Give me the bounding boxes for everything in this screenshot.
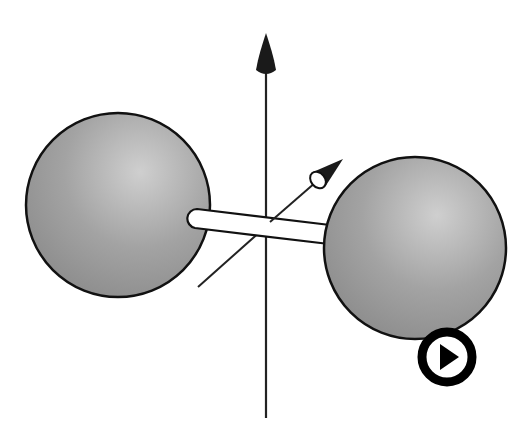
molecule-diagram: Play [0,0,529,440]
bond [187,209,330,244]
play-button[interactable]: Play [417,327,477,387]
vertical-axis-arrowhead-icon [256,33,276,74]
right-atom-sphere [324,157,506,339]
diagonal-axis [198,230,262,287]
left-atom-sphere [26,113,210,297]
play-icon [417,327,477,387]
